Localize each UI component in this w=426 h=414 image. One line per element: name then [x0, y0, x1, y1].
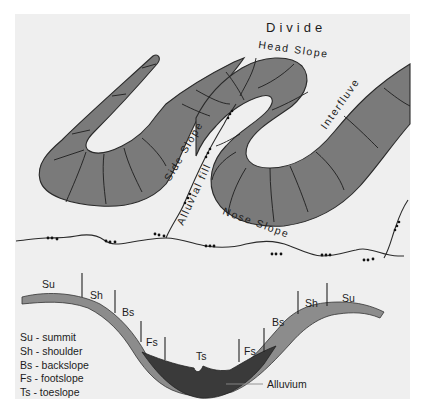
- label-bs-left: Bs: [122, 306, 134, 318]
- legend-item-summit: Su - summit: [20, 331, 76, 343]
- label-alluvium: Alluvium: [267, 378, 307, 390]
- label-sh-right: Sh: [305, 297, 318, 309]
- label-divide: Divide: [266, 20, 326, 35]
- legend-item-toeslope: Ts - toeslope: [20, 386, 80, 398]
- legend-item-shoulder: Sh - shoulder: [20, 345, 83, 357]
- label-fs-left: Fs: [146, 336, 158, 348]
- hillslope-figure: Divide Head Slope Interfluve Side Slope …: [0, 0, 426, 414]
- legend-item-backslope: Bs - backslope: [20, 359, 89, 371]
- legend-item-footslope: Fs - footslope: [20, 372, 84, 384]
- label-bs-right: Bs: [272, 316, 284, 328]
- label-ts: Ts: [196, 350, 207, 362]
- label-fs-right: Fs: [244, 345, 256, 357]
- label-sh-left: Sh: [90, 289, 103, 301]
- label-su-left: Su: [42, 278, 55, 290]
- label-su-right: Su: [342, 292, 355, 304]
